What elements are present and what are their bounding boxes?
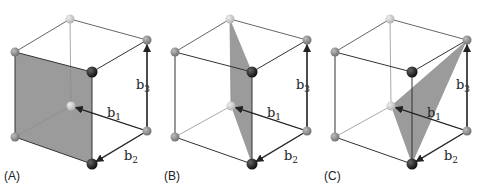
- vector-b2-arrow: [256, 131, 307, 161]
- panel-label: (C): [324, 169, 341, 183]
- lattice-point: [171, 48, 180, 57]
- cube-edge: [335, 137, 412, 164]
- lattice-point: [227, 102, 236, 111]
- lattice-point: [463, 36, 472, 45]
- vector-label-b3: b3: [296, 77, 310, 94]
- lattice-point: [463, 127, 472, 136]
- cube-edge: [15, 19, 70, 52]
- vector-label-b3: b3: [456, 77, 470, 94]
- lattice-point: [11, 48, 20, 57]
- cube-edge: [175, 19, 230, 52]
- lattice-plane: [391, 40, 467, 164]
- lattice-point: [171, 133, 180, 142]
- cube-edge: [70, 19, 147, 40]
- lattice-point: [303, 127, 312, 136]
- vector-label-b1: b1: [427, 105, 441, 122]
- lattice-point: [87, 159, 98, 170]
- panel-c: b1b2b3(C): [324, 15, 472, 184]
- vector-label-b2: b2: [124, 148, 138, 165]
- cube-edge: [252, 40, 307, 72]
- lattice-point: [247, 67, 258, 78]
- lattice-plane: [230, 19, 252, 164]
- vector-label-b1: b1: [267, 105, 281, 122]
- lattice-point: [303, 36, 312, 45]
- lattice-point: [387, 102, 396, 111]
- lattice-point: [386, 15, 395, 24]
- cube-edge: [390, 19, 467, 40]
- lattice-point: [67, 102, 76, 111]
- cube-edge: [230, 19, 307, 40]
- cube-edge: [175, 137, 252, 164]
- panel-b: b1b2b3(B): [164, 15, 312, 184]
- reciprocal-lattice-figure: b1b2b3(A)b1b2b3(B)b1b2b3(C): [0, 0, 485, 189]
- lattice-point: [331, 133, 340, 142]
- cube-edge: [335, 19, 390, 52]
- cube-edge: [335, 52, 412, 72]
- lattice-point: [143, 127, 152, 136]
- lattice-point: [66, 15, 75, 24]
- cube-edge: [92, 40, 147, 72]
- lattice-point: [143, 36, 152, 45]
- vector-label-b3: b3: [136, 77, 150, 94]
- lattice-point: [247, 159, 258, 170]
- cube-edge-hidden: [175, 106, 231, 137]
- lattice-point: [226, 15, 235, 24]
- lattice-point: [407, 67, 418, 78]
- lattice-point: [11, 133, 20, 142]
- vector-label-b1: b1: [107, 105, 121, 122]
- panel-label: (A): [4, 169, 20, 183]
- cube-edge-hidden: [335, 106, 391, 137]
- vector-b2-arrow: [96, 131, 147, 161]
- panel-label: (B): [164, 169, 180, 183]
- cube-edge-hidden: [390, 19, 391, 106]
- lattice-point: [407, 159, 418, 170]
- lattice-point: [331, 48, 340, 57]
- lattice-point: [87, 67, 98, 78]
- vector-label-b2: b2: [444, 148, 458, 165]
- vector-label-b2: b2: [284, 148, 298, 165]
- panel-a: b1b2b3(A): [4, 15, 152, 184]
